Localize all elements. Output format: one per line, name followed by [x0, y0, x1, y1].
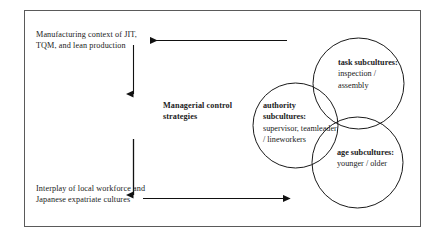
venn-label-age: age subcultures: younger / older [337, 147, 403, 170]
venn-label-authority-body: supervisor, teamleader / lineworkers [263, 123, 337, 146]
flow-block-manufacturing: Manufacturing context of JIT, TQM, and l… [36, 29, 154, 51]
venn-label-task: task subcultures: inspection / assembly [338, 57, 404, 91]
venn-label-task-heading: task subcultures: [338, 57, 404, 68]
venn-label-age-body: younger / older [337, 158, 403, 169]
flow-block-interplay: Interplay of local workforce and Japanes… [36, 183, 158, 205]
venn-label-authority-heading: authority subcultures: [263, 100, 337, 123]
venn-label-task-body: inspection / assembly [338, 68, 404, 91]
venn-label-age-heading: age subcultures: [337, 147, 403, 158]
flow-block-managerial: Managerial control strategies [163, 100, 233, 122]
diagram-canvas: Manufacturing context of JIT, TQM, and l… [0, 0, 440, 241]
venn-label-authority: authority subcultures: supervisor, teaml… [263, 100, 337, 146]
